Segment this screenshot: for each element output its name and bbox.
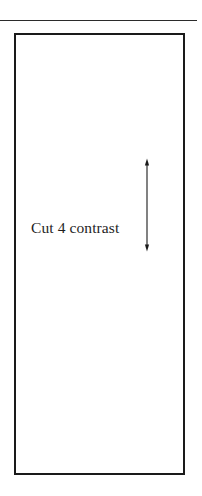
double-headed-arrow-icon (139, 157, 155, 253)
caption-label: Cut 4 contrast (31, 218, 119, 237)
top-horizontal-rule (0, 20, 197, 21)
bordered-rectangle (14, 33, 185, 475)
figure-canvas: Cut 4 contrast (0, 0, 202, 496)
